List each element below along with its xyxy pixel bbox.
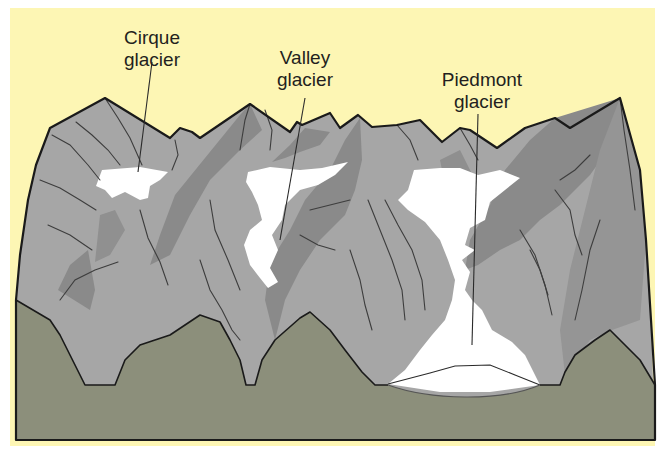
glacier-diagram: Cirque glacier Valley glacier Piedmont g…	[0, 0, 667, 457]
valley-glacier-label-line1: Valley	[280, 47, 331, 68]
valley-glacier-label-line2: glacier	[277, 69, 334, 90]
piedmont-glacier-label-line2: glacier	[454, 91, 511, 112]
diagram-canvas: Cirque glacier Valley glacier Piedmont g…	[0, 0, 667, 457]
cirque-glacier-label-line2: glacier	[124, 49, 181, 70]
cirque-glacier-label-line1: Cirque	[124, 27, 180, 48]
piedmont-glacier-label-line1: Piedmont	[442, 69, 523, 90]
